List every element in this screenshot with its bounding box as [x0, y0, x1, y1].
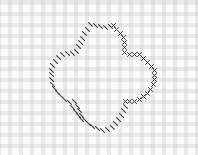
- cross-stitch-chart: [0, 0, 198, 155]
- cross-stitch-icon: [137, 97, 142, 102]
- backstitch-dash-icon: [65, 51, 70, 56]
- backstitch-dash-icon: [70, 51, 75, 56]
- backstitch-dash-icon: [79, 117, 84, 122]
- backstitch-dash-icon: [119, 113, 124, 118]
- cross-stitch-icon: [132, 99, 137, 104]
- backstitch-dash-icon: [123, 104, 128, 109]
- backstitch-dash-icon: [108, 24, 113, 29]
